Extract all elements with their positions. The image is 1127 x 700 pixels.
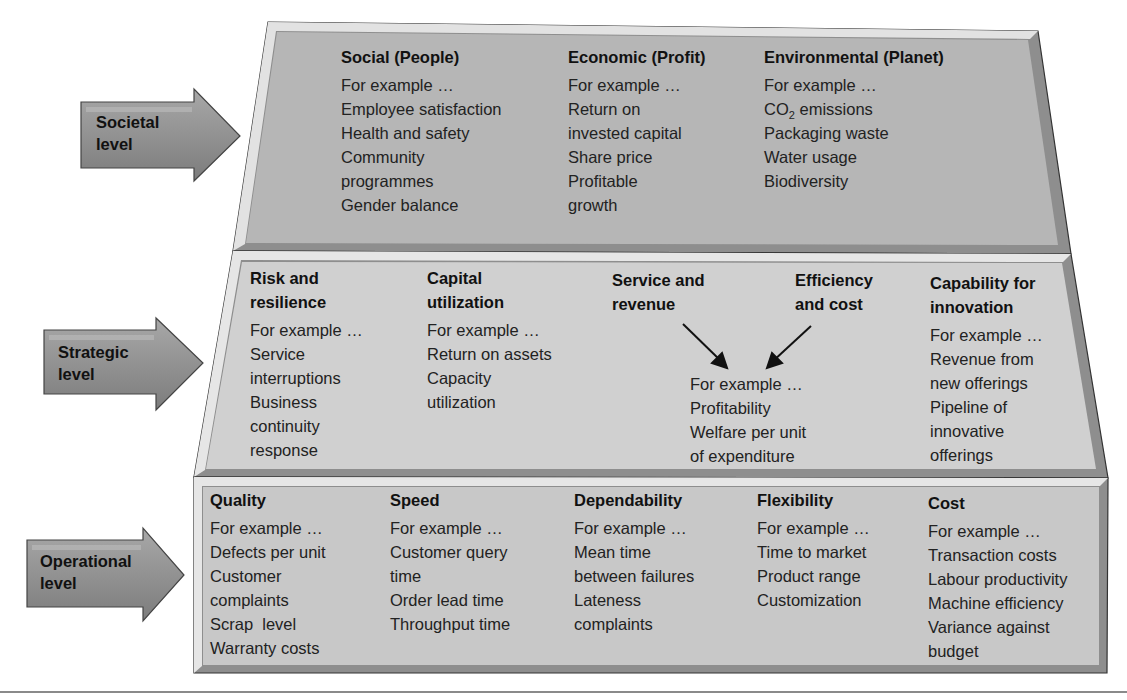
metric-item: invested capital bbox=[568, 121, 706, 145]
strategic-col-combined: For example … Profitability Welfare per … bbox=[690, 372, 806, 468]
example-intro: For example … bbox=[930, 323, 1043, 347]
column-heading: Economic (Profit) bbox=[568, 45, 706, 69]
metric-item: offerings bbox=[930, 443, 1043, 467]
example-intro: For example … bbox=[427, 318, 552, 342]
example-intro: For example … bbox=[390, 516, 510, 540]
metric-item: Customization bbox=[757, 588, 870, 612]
metric-item: Variance against bbox=[928, 615, 1067, 639]
metric-item: Order lead time bbox=[390, 588, 510, 612]
metric-item: new offerings bbox=[930, 371, 1043, 395]
metric-item: Gender balance bbox=[341, 193, 502, 217]
metric-item: Return on bbox=[568, 97, 706, 121]
metric-item: Profitable bbox=[568, 169, 706, 193]
metric-item: continuity bbox=[250, 414, 363, 438]
example-intro: For example … bbox=[574, 516, 694, 540]
metric-item: Revenue from bbox=[930, 347, 1043, 371]
metric-item: of expenditure bbox=[690, 444, 806, 468]
column-heading: Cost bbox=[928, 491, 1067, 515]
metric-item: Return on assets bbox=[427, 342, 552, 366]
example-intro: For example … bbox=[341, 73, 502, 97]
societal-level-label: Societal level bbox=[96, 111, 159, 155]
metric-item: utilization bbox=[427, 390, 552, 414]
column-heading: Dependability bbox=[574, 488, 694, 512]
strategic-col-capital: Capital utilization For example … Return… bbox=[427, 266, 552, 414]
example-intro: For example … bbox=[928, 519, 1067, 543]
heading-service-revenue: Service and revenue bbox=[612, 268, 705, 316]
operational-level-label: Operational level bbox=[40, 550, 132, 594]
metric-item: Capacity bbox=[427, 366, 552, 390]
metric-item: Scrap level bbox=[210, 612, 326, 636]
metric-item: Lateness bbox=[574, 588, 694, 612]
column-heading: Risk and resilience bbox=[250, 266, 363, 314]
metric-item: programmes bbox=[341, 169, 502, 193]
metric-item: Health and safety bbox=[341, 121, 502, 145]
column-heading: Environmental (Planet) bbox=[764, 45, 944, 69]
metric-item: Packaging waste bbox=[764, 121, 944, 145]
metric-item: interruptions bbox=[250, 366, 363, 390]
column-heading: Capital utilization bbox=[427, 266, 552, 314]
strategic-col-innovation: Capability for innovation For example … … bbox=[930, 271, 1043, 467]
metric-item: Welfare per unit bbox=[690, 420, 806, 444]
metric-item: budget bbox=[928, 639, 1067, 663]
strategic-col-risk: Risk and resilience For example … Servic… bbox=[250, 266, 363, 462]
metric-item: Defects per unit bbox=[210, 540, 326, 564]
operational-col-cost: Cost For example … Transaction costs Lab… bbox=[928, 491, 1067, 663]
metric-item: between failures bbox=[574, 564, 694, 588]
metric-item: Customer query bbox=[390, 540, 510, 564]
metric-item: Service bbox=[250, 342, 363, 366]
operational-col-dependability: Dependability For example … Mean time be… bbox=[574, 488, 694, 636]
metric-item: time bbox=[390, 564, 510, 588]
heading-efficiency-cost: Efficiency and cost bbox=[795, 268, 873, 316]
metric-item: Customer bbox=[210, 564, 326, 588]
metric-item: Biodiversity bbox=[764, 169, 944, 193]
metric-item: Community bbox=[341, 145, 502, 169]
metric-item: Profitability bbox=[690, 396, 806, 420]
example-intro: For example … bbox=[764, 73, 944, 97]
operational-col-quality: Quality For example … Defects per unit C… bbox=[210, 488, 326, 660]
metric-item-co2: CO2 emissions bbox=[764, 97, 944, 121]
metric-item: Employee satisfaction bbox=[341, 97, 502, 121]
metric-item: Throughput time bbox=[390, 612, 510, 636]
example-intro: For example … bbox=[250, 318, 363, 342]
metric-item: Product range bbox=[757, 564, 870, 588]
column-heading: Capability for innovation bbox=[930, 271, 1043, 319]
metric-item: Pipeline of bbox=[930, 395, 1043, 419]
column-heading: Social (People) bbox=[341, 45, 502, 69]
strategic-level-label: Strategic level bbox=[58, 341, 129, 385]
metric-item: Water usage bbox=[764, 145, 944, 169]
example-intro: For example … bbox=[210, 516, 326, 540]
metric-item: Time to market bbox=[757, 540, 870, 564]
column-heading: Flexibility bbox=[757, 488, 870, 512]
metric-item: Warranty costs bbox=[210, 636, 326, 660]
example-intro: For example … bbox=[690, 372, 806, 396]
metric-item: growth bbox=[568, 193, 706, 217]
metric-item: response bbox=[250, 438, 363, 462]
operational-col-speed: Speed For example … Customer query time … bbox=[390, 488, 510, 636]
metric-item: Business bbox=[250, 390, 363, 414]
column-heading: Quality bbox=[210, 488, 326, 512]
operational-col-flexibility: Flexibility For example … Time to market… bbox=[757, 488, 870, 612]
metric-item: Transaction costs bbox=[928, 543, 1067, 567]
example-intro: For example … bbox=[757, 516, 870, 540]
metric-item: Mean time bbox=[574, 540, 694, 564]
column-heading: Speed bbox=[390, 488, 510, 512]
societal-col-environmental: Environmental (Planet) For example … CO2… bbox=[764, 45, 944, 193]
societal-col-economic: Economic (Profit) For example … Return o… bbox=[568, 45, 706, 217]
metric-item: complaints bbox=[574, 612, 694, 636]
metric-item: innovative bbox=[930, 419, 1043, 443]
metric-item: Labour productivity bbox=[928, 567, 1067, 591]
metric-item: Machine efficiency bbox=[928, 591, 1067, 615]
example-intro: For example … bbox=[568, 73, 706, 97]
societal-col-social: Social (People) For example … Employee s… bbox=[341, 45, 502, 217]
metric-item: Share price bbox=[568, 145, 706, 169]
metric-item: complaints bbox=[210, 588, 326, 612]
